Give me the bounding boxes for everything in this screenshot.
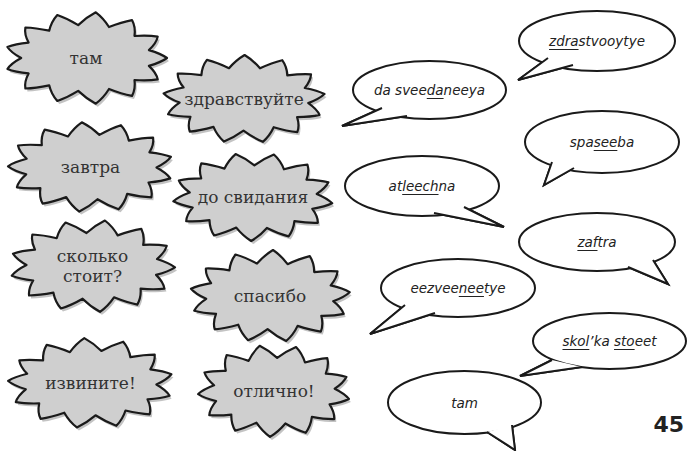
russian-word: завтра [8,122,173,212]
stressed-syllable: nee [459,280,484,296]
russian-word: там [5,12,175,104]
pronunciation-text: spaseeba [524,110,680,174]
stressed-syllable: zaf [577,234,597,250]
pronunciation-text: da sveedaneeya [352,60,507,120]
page-number: 45 [653,412,684,437]
word-burst-otlichno: отлично! [198,345,350,437]
russian-word: спасибо [190,250,350,342]
russian-word: до свидания [173,153,333,241]
pron-bubble-eezveeneetye: eezveeneetye [380,258,536,318]
stressed-syllable: skol [562,333,589,349]
stressed-syllable: da [427,82,444,98]
stressed-syllable: leech [402,178,438,194]
syllable: eet [635,333,657,349]
russian-word: извините! [8,338,173,428]
syllable: ba [617,134,634,150]
pronunciation-text: zaftra [518,212,676,272]
syllable: neeya [444,82,485,98]
russian-word: отлично! [198,345,350,437]
syllable: spa [570,134,594,150]
russian-word: здравствуйте [163,55,325,143]
pron-bubble-zdrastvooytye: zdrastvooytye [518,10,676,72]
pron-bubble-tam: tam [387,370,542,435]
stressed-syllable: see [594,134,618,150]
syllable: eezvee [410,280,458,296]
pron-bubble-skolka-stoeet: skol’ka stoeet [532,312,687,370]
stressed-syllable: zdra [549,33,578,49]
syllable: na [439,178,456,194]
pronunciation-text: tam [387,370,542,435]
syllable: tye [484,280,506,296]
pron-bubble-zaftra: zaftra [518,212,676,272]
pronunciation-text: atleechna [344,155,500,217]
syllable: tra [598,234,617,250]
russian-word: сколько стоит? [10,220,175,312]
pron-bubble-atleechna: atleechna [344,155,500,217]
word-burst-do-svidaniya: до свидания [173,153,333,241]
pronunciation-text: eezveeneetye [380,258,536,318]
syllable: tam [451,395,478,411]
stressed-syllable: sto [614,333,635,349]
syllable: at [389,178,403,194]
syllable: stvooytye [579,33,645,49]
word-burst-zavtra: завтра [8,122,173,212]
pronunciation-text: zdrastvooytye [518,10,676,72]
word-burst-spasibo: спасибо [190,250,350,342]
syllable: ’ka [589,333,614,349]
word-burst-zdravstvuyte: здравствуйте [163,55,325,143]
word-burst-tam: там [5,12,167,104]
pronunciation-text: skol’ka stoeet [532,312,687,370]
word-burst-izvinite: извините! [8,338,173,428]
pron-bubble-da-sveedaneeya: da sveedaneeya [352,60,507,120]
syllable: da svee [374,82,427,98]
word-burst-skolko-stoit: сколько стоит? [10,220,175,312]
pron-bubble-spaseeba: spaseeba [524,110,680,174]
